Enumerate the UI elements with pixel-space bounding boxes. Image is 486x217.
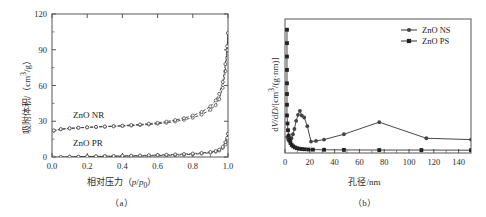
panel-a-data-point — [156, 153, 159, 156]
panel-b-x-tick-label: 0 — [283, 157, 287, 167]
panel-b-data-point — [285, 92, 289, 96]
panel-b-data-point — [424, 136, 428, 140]
panel-b-data-point — [342, 148, 346, 152]
panel-b-x-tick-label: 40 — [330, 157, 339, 167]
panel-b-data-point — [314, 139, 318, 143]
panel-a-data-point — [86, 126, 89, 129]
panel-a-data-point — [59, 128, 62, 131]
panel-a-y-tick-label: 0 — [43, 152, 47, 162]
panel-a-x-tick-label: 0.4 — [117, 161, 128, 171]
panel-a-x-axis-title: 相对压力（p/p0） — [0, 175, 243, 190]
panel-a-caption: （a） — [0, 196, 243, 209]
panel-a-data-point — [221, 145, 224, 148]
panel-a-data-point — [130, 124, 133, 127]
panel-a-data-point — [103, 125, 106, 128]
panel-a-x-tick-label: 0.6 — [152, 161, 163, 171]
panel-b-x-tick-label: 60 — [355, 157, 364, 167]
panel-b-data-point — [285, 103, 289, 107]
panel-a-y-tick-label: 120 — [34, 9, 47, 19]
panel-b-data-point — [309, 140, 313, 144]
panel-a-data-point — [200, 151, 203, 154]
panel-b-data-point — [305, 124, 309, 128]
panel-a-y-axis-title: 吸附体积/（cm3/g） — [19, 25, 33, 165]
panel-b-data-point — [322, 148, 326, 152]
panel-b-data-point — [377, 148, 381, 152]
panel-a-data-point — [68, 127, 71, 130]
panel-b-legend-marker — [407, 39, 411, 43]
panel-b-data-point — [294, 119, 298, 123]
panel-a-data-point — [221, 80, 224, 83]
panel-b-x-tick-label: 80 — [380, 157, 389, 167]
panel-a-data-point — [147, 122, 150, 125]
panel-b-y-axis-title: dV/dD/[cm3/(g·nm)] — [267, 20, 280, 170]
panel-b-data-point — [285, 41, 289, 45]
panel-a-data-point — [52, 156, 55, 159]
panel-b-data-point — [286, 128, 290, 132]
panel-b-data-point — [303, 147, 307, 151]
panel-a-data-point — [77, 155, 80, 158]
panel-a-data-point — [224, 63, 227, 66]
panel-a-x-tick-label: 0.0 — [47, 161, 58, 171]
panel-b-x-tick-label: 120 — [427, 157, 440, 167]
panel-a-data-point — [224, 141, 227, 144]
panel-a-data-point — [191, 114, 194, 117]
panel-b-data-point — [311, 148, 315, 152]
panel-a-data-point — [183, 153, 186, 156]
figure-container: 0.00.20.40.60.81.00306090120ZnO NRZnO PR… — [0, 0, 486, 217]
panel-b-x-tick-label: 140 — [452, 157, 465, 167]
panel-b-data-point — [288, 138, 292, 142]
panel-a-data-point — [95, 125, 98, 128]
panel-a-data-point — [174, 119, 177, 122]
panel-a-data-point — [191, 152, 194, 155]
panel-a-data-point — [121, 124, 124, 127]
panel-a-y-tick-label: 60 — [39, 81, 48, 91]
panel-a-data-point — [174, 153, 177, 156]
panel-b-pore-size-distribution: 020406080100120140ZnO NSZnO PS dV/dD/[cm… — [243, 0, 486, 217]
panel-b-data-point — [285, 55, 289, 59]
panel-b-data-point — [285, 68, 289, 72]
panel-a-x-tick-label: 1.0 — [223, 161, 234, 171]
panel-a-x-tick-label: 0.2 — [82, 161, 93, 171]
panel-b-data-point — [286, 122, 290, 126]
panel-b-data-point — [285, 81, 289, 85]
panel-a-data-point — [139, 123, 142, 126]
panel-a-axes-frame — [52, 14, 228, 157]
panel-a-data-point — [214, 104, 217, 107]
panel-a-data-point — [214, 99, 217, 102]
panel-a-data-point — [77, 126, 80, 129]
panel-a-data-point — [218, 148, 221, 151]
panel-b-data-point — [296, 113, 300, 117]
panel-a-data-point — [147, 154, 150, 157]
panel-b-data-point — [285, 114, 289, 118]
panel-a-x-tick-label: 0.8 — [187, 161, 198, 171]
panel-b-legend-label: ZnO NS — [422, 25, 451, 35]
panel-a-data-point — [214, 150, 217, 153]
panel-b-x-axis-title: 孔径/nm — [243, 175, 486, 188]
panel-a-data-point — [121, 154, 124, 157]
panel-a-series-annotation: ZnO PR — [73, 138, 103, 148]
panel-b-data-point — [293, 127, 297, 131]
panel-b-data-point — [302, 116, 306, 120]
panel-b-data-point — [342, 132, 346, 136]
panel-b-data-point — [469, 148, 473, 152]
panel-a-data-point — [218, 92, 221, 95]
panel-a-adsorption-isotherm: 0.00.20.40.60.81.00306090120ZnO NRZnO PR… — [0, 0, 243, 217]
panel-b-x-tick-label: 100 — [403, 157, 416, 167]
panel-b-data-point — [322, 138, 326, 142]
panel-a-data-point — [227, 132, 230, 135]
panel-a-data-point — [200, 110, 203, 113]
panel-a-series-annotation: ZnO NR — [73, 110, 104, 120]
panel-a-data-point — [221, 86, 224, 89]
panel-b-data-point — [298, 109, 302, 113]
panel-b-data-point — [469, 138, 473, 142]
panel-a-y-tick-label: 90 — [39, 45, 48, 55]
panel-a-y-tick-label: 30 — [39, 116, 48, 126]
panel-a-data-point — [209, 108, 212, 111]
panel-b-data-point — [287, 134, 291, 138]
panel-b-caption: （b） — [243, 196, 486, 209]
panel-b-legend-label: ZnO PS — [422, 36, 449, 46]
panel-a-data-point — [156, 121, 159, 124]
panel-a-data-point — [52, 129, 55, 132]
panel-b-data-point — [291, 132, 295, 136]
panel-a-data-point — [209, 105, 212, 108]
